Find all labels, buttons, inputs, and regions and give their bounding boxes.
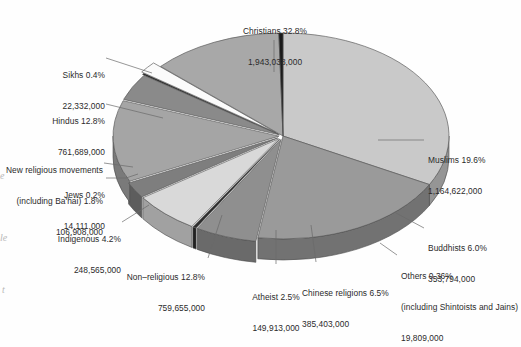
slice-label-buddhists-line1: Buddhists 6.0% <box>428 243 521 253</box>
slice-label-muslims-line1: Muslims 19.6% <box>428 155 521 165</box>
slice-label-hindus-line1: Hindus 12.8% <box>10 116 105 126</box>
slice-label-christians: Christians 32.8% 1,943,038,000 <box>210 6 340 88</box>
slice-label-jews-line1: Jews 0.2% <box>10 190 105 200</box>
slice-label-buddhists-line2: 353,794,000 <box>428 274 521 284</box>
slice-label-indigenous-line1: Indigenous 4.2% <box>20 234 121 244</box>
slice-label-others-line3: 19,809,000 <box>401 333 521 343</box>
slice-label-non-religious-line2: 759,655,000 <box>95 303 205 313</box>
leader-line-others <box>380 243 397 255</box>
pie-wall-others <box>193 227 196 249</box>
page-bleed-mark-3: t <box>2 284 5 295</box>
slice-label-non-religious-line1: Non–religious 12.8% <box>95 272 205 282</box>
page-bleed-mark-1: e <box>0 170 4 181</box>
slice-label-buddhists: Buddhists 6.0% 353,794,000 <box>428 223 521 305</box>
slice-label-sikhs-line1: Sikhs 0.4% <box>10 70 105 80</box>
slice-label-non-religious: Non–religious 12.8% 759,655,000 <box>95 252 205 334</box>
slice-label-christians-line2: 1,943,038,000 <box>210 57 340 67</box>
leader-line-sikhs <box>106 58 152 73</box>
page-bleed-mark-2: le <box>0 232 7 243</box>
slice-label-muslims: Muslims 19.6% 1,164,622,000 <box>428 135 521 217</box>
slice-label-christians-line1: Christians 32.8% <box>210 26 340 36</box>
slice-label-muslims-line2: 1,164,622,000 <box>428 186 521 196</box>
